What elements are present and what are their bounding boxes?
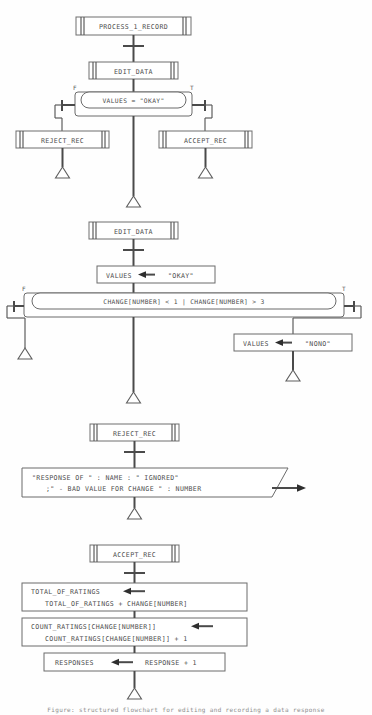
branch-label-false-2: F [22, 285, 26, 292]
branch-label-true-1: T [190, 84, 194, 91]
assignment-target: TOTAL_OF_RATINGS [31, 588, 100, 596]
output-parallelogram-reject-message[interactable]: "RESPONSE OF " : NAME : " IGNORED" ;" - … [22, 468, 288, 497]
assignment-box-count-ratings[interactable]: COUNT_RATINGS[CHANGE[NUMBER]] COUNT_RATI… [22, 618, 247, 646]
branch-label-true-2: T [342, 285, 346, 292]
terminal-label-accept-rec: ACCEPT_REC [113, 551, 156, 559]
assignment-target: COUNT_RATINGS[CHANGE[NUMBER]] [31, 623, 156, 631]
flowchart-canvas: PROCESS_1_RECORD EDIT_DATA VALUES = "OKA… [0, 0, 372, 715]
assignment-box-total-of-ratings[interactable]: TOTAL_OF_RATINGS TOTAL_OF_RATINGS + CHAN… [22, 583, 247, 611]
assignment-box-responses[interactable]: RESPONSES RESPONSE + 1 [44, 653, 225, 671]
call-box-edit-data-1[interactable]: EDIT_DATA [89, 62, 178, 79]
branch-false-path-1 [55, 100, 75, 131]
call-box-accept-rec-1[interactable]: ACCEPT_REC [159, 131, 252, 148]
section-reject-rec: REJECT_REC "RESPONSE OF " : NAME : " IGN… [22, 424, 306, 519]
terminator-triangle [127, 392, 141, 403]
section-accept-rec: ACCEPT_REC TOTAL_OF_RATINGS TOTAL_OF_RAT… [22, 545, 247, 699]
assignment-expression: TOTAL_OF_RATINGS + CHANGE[NUMBER] [45, 600, 188, 608]
terminator-triangle [199, 167, 213, 178]
decision-label-change-range: CHANGE[NUMBER] < 1 | CHANGE[NUMBER] > 3 [103, 298, 265, 306]
output-line-1: "RESPONSE OF " : NAME : " IGNORED" [32, 474, 179, 482]
branch-label-false-1: F [73, 84, 77, 91]
decision-label-values-okay: VALUES = "OKAY" [102, 97, 164, 104]
terminal-edit-data[interactable]: EDIT_DATA [89, 222, 178, 239]
section-edit-data: EDIT_DATA VALUES "OKAY" CHANGE[NUMBER] <… [7, 222, 361, 403]
terminal-reject-rec[interactable]: REJECT_REC [90, 424, 179, 441]
terminator-triangle [128, 688, 142, 699]
assignment-box-values-nono[interactable]: VALUES "NONO" [234, 334, 352, 351]
terminal-label-process-1-record: PROCESS_1_RECORD [99, 23, 168, 31]
call-box-label-accept-rec-1: ACCEPT_REC [184, 137, 227, 145]
assignment-box-values-okay[interactable]: VALUES "OKAY" [97, 266, 215, 283]
assignment-target: RESPONSES [55, 659, 94, 667]
call-box-label-edit-data-1: EDIT_DATA [114, 68, 153, 76]
call-box-reject-rec-1[interactable]: REJECT_REC [16, 131, 109, 148]
terminal-process-1-record[interactable]: PROCESS_1_RECORD [76, 17, 191, 35]
branch-true-path-1 [192, 100, 212, 131]
terminator-triangle [286, 370, 300, 381]
terminator-triangle [128, 508, 142, 519]
figure-caption: Figure: structured flowchart for editing… [47, 706, 324, 714]
assignment-expression: "NONO" [305, 340, 331, 348]
terminal-label-reject-rec: REJECT_REC [113, 430, 156, 438]
terminator-triangle [18, 348, 32, 359]
call-box-label-reject-rec-1: REJECT_REC [41, 137, 84, 145]
assignment-target: VALUES [106, 272, 132, 280]
branch-false-path-2 [7, 301, 25, 348]
terminal-label-edit-data: EDIT_DATA [114, 228, 153, 236]
assignment-target: VALUES [243, 340, 269, 348]
terminator-triangle [56, 167, 70, 178]
output-line-2: ;" - BAD VALUE FOR CHANGE " : NUMBER [46, 485, 202, 493]
assignment-expression: COUNT_RATINGS[CHANGE[NUMBER]] + 1 [45, 635, 188, 643]
diagram-sheet: PROCESS_1_RECORD EDIT_DATA VALUES = "OKA… [0, 0, 372, 715]
terminal-accept-rec[interactable]: ACCEPT_REC [90, 545, 179, 562]
terminator-triangle [127, 196, 141, 207]
assignment-expression: "OKAY" [168, 272, 194, 280]
section-process-1-record: PROCESS_1_RECORD EDIT_DATA VALUES = "OKA… [16, 17, 252, 207]
assignment-expression: RESPONSE + 1 [145, 659, 197, 667]
